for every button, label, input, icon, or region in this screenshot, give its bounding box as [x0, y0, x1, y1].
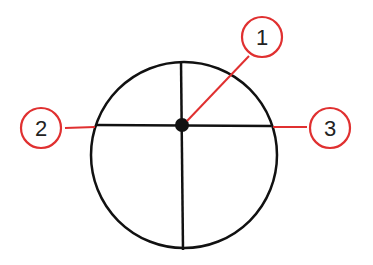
main-circle: [91, 62, 277, 248]
vertical-line: [181, 61, 183, 250]
leader-line-2: [65, 127, 95, 128]
callout-2: 2: [21, 108, 95, 148]
callout-label-1: 1: [256, 25, 268, 50]
callout-3: 3: [273, 108, 350, 148]
leader-line-1: [187, 56, 249, 121]
callout-label-3: 3: [324, 116, 336, 141]
diagram-canvas: 1 2 3: [0, 0, 373, 265]
callout-label-2: 2: [35, 116, 47, 141]
callout-1: 1: [187, 17, 282, 121]
